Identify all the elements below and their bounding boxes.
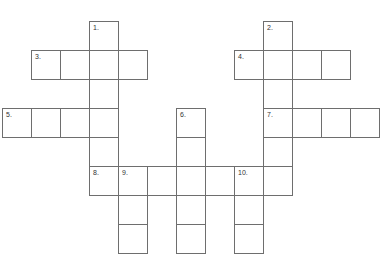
crossword-cell[interactable]: 6. — [176, 108, 206, 138]
crossword-cell[interactable] — [118, 195, 148, 225]
crossword-cell[interactable] — [176, 137, 206, 167]
clue-number: 10. — [238, 169, 248, 177]
clue-number: 2. — [267, 24, 273, 32]
crossword-cell[interactable] — [89, 137, 119, 167]
crossword-cell[interactable]: 9. — [118, 166, 148, 196]
crossword-cell[interactable] — [89, 50, 119, 80]
crossword-cell[interactable]: 3. — [31, 50, 61, 80]
crossword-cell[interactable] — [292, 50, 322, 80]
crossword-cell[interactable] — [147, 166, 177, 196]
crossword-cell[interactable] — [176, 195, 206, 225]
crossword-cell[interactable]: 4. — [234, 50, 264, 80]
clue-number: 8. — [93, 169, 99, 177]
crossword-cell[interactable] — [234, 224, 264, 254]
clue-number: 4. — [238, 53, 244, 61]
crossword-cell[interactable]: 8. — [89, 166, 119, 196]
clue-number: 6. — [180, 111, 186, 119]
crossword-cell[interactable] — [292, 108, 322, 138]
clue-number: 3. — [35, 53, 41, 61]
crossword-cell[interactable] — [321, 108, 351, 138]
crossword-cell[interactable] — [176, 166, 206, 196]
crossword-cell[interactable] — [60, 50, 90, 80]
crossword-cell[interactable] — [263, 137, 293, 167]
clue-number: 7. — [267, 111, 273, 119]
crossword-cell[interactable] — [31, 108, 61, 138]
clue-number: 9. — [122, 169, 128, 177]
crossword-cell[interactable]: 1. — [89, 21, 119, 51]
crossword-cell[interactable] — [263, 166, 293, 196]
crossword-cell[interactable] — [176, 224, 206, 254]
crossword-cell[interactable] — [118, 50, 148, 80]
clue-number: 5. — [6, 111, 12, 119]
crossword-cell[interactable]: 7. — [263, 108, 293, 138]
crossword-cell[interactable] — [205, 166, 235, 196]
clue-number: 1. — [93, 24, 99, 32]
crossword-cell[interactable] — [118, 224, 148, 254]
crossword-cell[interactable] — [234, 195, 264, 225]
crossword-cell[interactable]: 10. — [234, 166, 264, 196]
crossword-cell[interactable] — [60, 108, 90, 138]
crossword-cell[interactable]: 2. — [263, 21, 293, 51]
crossword-cell[interactable] — [89, 79, 119, 109]
crossword-cell[interactable] — [263, 50, 293, 80]
crossword-cell[interactable]: 5. — [2, 108, 32, 138]
crossword-cell[interactable] — [350, 108, 380, 138]
crossword-cell[interactable] — [89, 108, 119, 138]
crossword-cell[interactable] — [321, 50, 351, 80]
crossword-cell[interactable] — [263, 79, 293, 109]
